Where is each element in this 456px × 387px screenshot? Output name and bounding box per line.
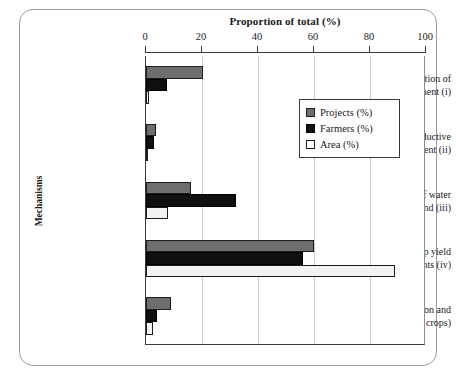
x-tick-label: 0 — [125, 31, 165, 42]
legend-item: Projects (%) — [306, 104, 393, 120]
bar — [146, 322, 153, 335]
legend-swatch-farmers — [306, 124, 315, 133]
legend-swatch-projects — [306, 108, 315, 117]
x-axis-title: Proportion of total (%) — [145, 15, 425, 27]
bar — [146, 182, 191, 195]
bar — [146, 207, 168, 220]
y-axis-title: Mechanisms — [34, 156, 44, 246]
x-tick-label: 100 — [405, 31, 445, 42]
bar — [146, 124, 156, 137]
legend-label: Area (%) — [320, 139, 359, 150]
bar — [146, 91, 149, 104]
legend-item: Farmers (%) — [306, 120, 393, 136]
bar — [146, 136, 154, 149]
x-tick-label: 40 — [237, 31, 277, 42]
gridline — [258, 56, 259, 344]
bar — [146, 240, 314, 253]
chart-figure: Proportion of total (%) Mechanisms 02040… — [0, 0, 456, 387]
bar — [146, 194, 236, 207]
x-tick-label: 60 — [293, 31, 333, 42]
bar — [146, 265, 395, 278]
bar — [146, 297, 171, 310]
x-axis-line — [145, 52, 425, 53]
x-tick-label: 20 — [181, 31, 221, 42]
x-tick-mark — [425, 46, 426, 53]
bar — [146, 79, 167, 92]
chart-legend: Projects (%)Farmers (%)Area (%) — [299, 99, 400, 158]
legend-swatch-area — [306, 140, 315, 149]
bar — [146, 252, 303, 265]
legend-item: Area (%) — [306, 136, 393, 152]
x-tick-label: 80 — [349, 31, 389, 42]
legend-label: Projects (%) — [320, 107, 372, 118]
legend-label: Farmers (%) — [320, 123, 373, 134]
bar — [146, 149, 148, 162]
bar — [146, 66, 203, 79]
bar — [146, 310, 157, 323]
